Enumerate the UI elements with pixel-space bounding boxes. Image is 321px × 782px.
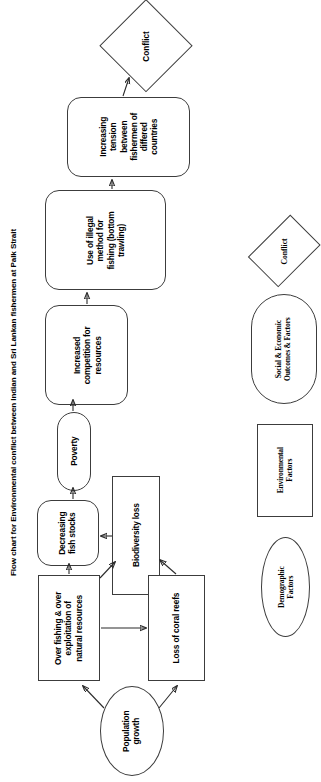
node-loss-of-coral-reefs[interactable]: Loss of coral reefs: [148, 575, 205, 681]
edge-population-overfishing: [83, 686, 104, 708]
legend-item-social-economic[interactable]: Social & EconomicOutcomes & Factors: [251, 294, 317, 404]
node-population-growth-label: Populationgrowth: [122, 710, 143, 751]
node-increasing-tension-label: Increasingtensionbetweenfishermen ofdiff…: [98, 113, 160, 161]
node-illegal-method[interactable]: Use of illegalmethod forfishing (bottomt…: [45, 190, 166, 290]
legend-item-social-economic-label: Social & EconomicOutcomes & Factors: [275, 317, 294, 380]
legend-item-conflict-label: Conflict: [280, 238, 289, 264]
node-poverty-label: Poverty: [69, 437, 79, 466]
node-loss-of-coral-reefs-label: Loss of coral reefs: [171, 593, 181, 664]
edge-coral-biodiversity: [160, 560, 176, 574]
node-increased-competition[interactable]: Increasedcompetition forresources: [45, 305, 128, 405]
legend-item-demographic-label: DemographicFactors: [276, 566, 295, 608]
node-decreasing-fish-stocks[interactable]: Decreasingfish stocks: [37, 500, 99, 566]
legend-item-conflict[interactable]: Conflict: [250, 203, 318, 299]
node-population-growth[interactable]: Populationgrowth: [100, 686, 164, 776]
node-overfishing-label: Over fishing & overexploitation ofnatura…: [54, 591, 85, 664]
node-conflict[interactable]: Conflict: [99, 0, 193, 93]
legend-item-environmental[interactable]: EnvironmentalFactors: [257, 424, 313, 517]
page-title: Flow chart for Environmental conflict be…: [9, 183, 18, 623]
legend-item-environmental-label: EnvironmentalFactors: [276, 447, 295, 493]
node-increasing-tension[interactable]: Increasingtensionbetweenfishermen ofdiff…: [67, 97, 190, 177]
node-overfishing[interactable]: Over fishing & overexploitation ofnatura…: [38, 575, 100, 681]
node-poverty[interactable]: Poverty: [57, 412, 91, 491]
legend-item-demographic[interactable]: DemographicFactors: [261, 537, 310, 637]
flowchart-canvas: Flow chart for Environmental conflict be…: [0, 0, 321, 782]
node-biodiversity-loss-label: Biodiversity loss: [131, 504, 141, 568]
edge-population-coral: [159, 686, 177, 708]
node-decreasing-fish-stocks-label: Decreasingfish stocks: [58, 511, 79, 554]
node-increased-competition-label: Increasedcompetition forresources: [71, 326, 102, 384]
node-illegal-method-label: Use of illegalmethod forfishing (bottomt…: [85, 211, 126, 269]
node-conflict-label: Conflict: [141, 31, 150, 61]
